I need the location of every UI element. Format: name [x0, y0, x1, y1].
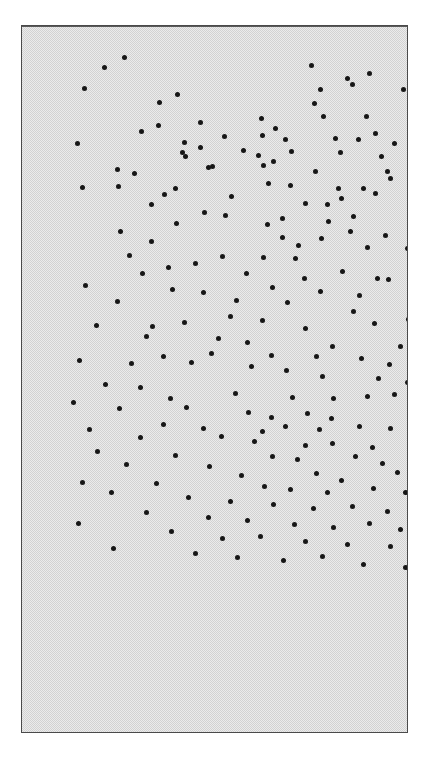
data-point — [333, 136, 338, 141]
data-point — [320, 374, 325, 379]
data-point — [80, 185, 85, 190]
data-point — [270, 285, 275, 290]
data-point — [314, 354, 319, 359]
data-point — [189, 360, 194, 365]
data-point — [375, 276, 380, 281]
data-point — [220, 254, 225, 259]
data-point — [235, 555, 240, 560]
data-point — [357, 293, 362, 298]
data-point — [350, 504, 355, 509]
data-point — [209, 351, 214, 356]
data-point — [198, 145, 203, 150]
data-point — [182, 140, 187, 145]
data-point — [376, 376, 381, 381]
data-point — [289, 149, 294, 154]
data-point — [109, 490, 114, 495]
data-point — [202, 210, 207, 215]
data-point — [249, 364, 254, 369]
data-point — [245, 340, 250, 345]
data-point — [129, 361, 134, 366]
data-point — [364, 114, 369, 119]
data-point — [325, 202, 330, 207]
data-point — [283, 424, 288, 429]
data-point — [244, 271, 249, 276]
data-point — [156, 123, 161, 128]
data-point — [223, 213, 228, 218]
data-point — [385, 169, 390, 174]
data-point — [260, 429, 265, 434]
data-point — [260, 133, 265, 138]
data-point — [288, 183, 293, 188]
data-point — [379, 154, 384, 159]
data-point — [395, 470, 400, 475]
data-point — [303, 201, 308, 206]
data-point — [122, 55, 127, 60]
data-point — [228, 314, 233, 319]
data-point — [261, 163, 266, 168]
data-point — [330, 441, 335, 446]
data-point — [339, 478, 344, 483]
data-point — [351, 309, 356, 314]
data-point — [193, 261, 198, 266]
data-point — [116, 184, 121, 189]
data-point — [233, 391, 238, 396]
data-point — [296, 243, 301, 248]
data-point — [325, 490, 330, 495]
scatter-points-layer — [22, 26, 407, 732]
data-point — [388, 544, 393, 549]
data-point — [283, 137, 288, 142]
data-point — [295, 457, 300, 462]
data-point — [280, 235, 285, 240]
data-point — [350, 82, 355, 87]
data-point — [161, 354, 166, 359]
data-point — [356, 137, 361, 142]
data-point — [367, 521, 372, 526]
data-point — [392, 392, 397, 397]
data-point — [149, 239, 154, 244]
data-point — [95, 449, 100, 454]
data-point — [320, 554, 325, 559]
data-point — [321, 114, 326, 119]
data-point — [207, 464, 212, 469]
data-point — [103, 382, 108, 387]
data-point — [222, 134, 227, 139]
data-point — [94, 323, 99, 328]
data-point — [168, 396, 173, 401]
data-point — [193, 551, 198, 556]
data-point — [329, 416, 334, 421]
figure-root — [0, 0, 429, 759]
data-point — [401, 87, 406, 92]
data-point — [124, 462, 129, 467]
plot-frame — [21, 25, 408, 733]
data-point — [309, 63, 314, 68]
data-point — [138, 435, 143, 440]
data-point — [408, 218, 409, 223]
data-point — [361, 186, 366, 191]
data-point — [258, 534, 263, 539]
data-point — [175, 92, 180, 97]
data-point — [239, 473, 244, 478]
data-point — [261, 255, 266, 260]
data-point — [281, 558, 286, 563]
data-point — [398, 344, 403, 349]
data-point — [144, 334, 149, 339]
data-point — [260, 318, 265, 323]
data-point — [293, 256, 298, 261]
data-point — [345, 76, 350, 81]
data-point — [370, 445, 375, 450]
data-point — [102, 65, 107, 70]
data-point — [154, 481, 159, 486]
data-point — [234, 298, 239, 303]
data-point — [269, 415, 274, 420]
data-point — [373, 191, 378, 196]
data-point — [115, 299, 120, 304]
data-point — [312, 101, 317, 106]
data-point — [365, 394, 370, 399]
data-point — [82, 86, 87, 91]
data-point — [132, 171, 137, 176]
data-point — [345, 542, 350, 547]
data-point — [216, 336, 221, 341]
data-point — [228, 499, 233, 504]
data-point — [271, 502, 276, 507]
data-point — [219, 434, 224, 439]
